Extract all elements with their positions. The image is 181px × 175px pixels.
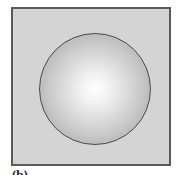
figure-caption: (b) [12, 168, 28, 175]
shaded-sphere [39, 33, 151, 145]
